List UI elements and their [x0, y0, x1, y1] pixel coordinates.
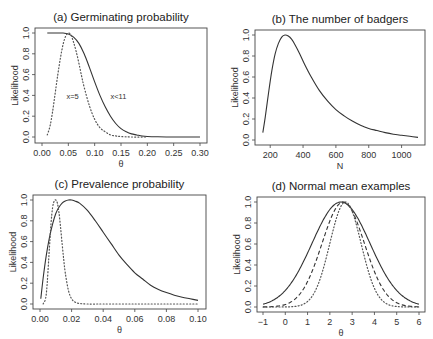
- x-tick-label: 0.00: [31, 314, 49, 324]
- series-line-solid: [47, 33, 200, 137]
- plot-frame: [255, 30, 425, 145]
- series-line-dashed: [263, 202, 419, 307]
- x-tick-label: 0.10: [189, 314, 207, 324]
- y-axis-label: Likelihood: [230, 67, 240, 108]
- x-tick-label: 0.05: [60, 148, 78, 158]
- x-axis-label: θ: [117, 325, 122, 335]
- x-axis-label: θ: [118, 159, 123, 169]
- x-tick-label: 5: [394, 317, 399, 327]
- panel-a-germinating-probability: (a) Germinating probability0.000.050.100…: [10, 11, 209, 169]
- y-tick-label: 1.0: [243, 196, 253, 209]
- x-tick-label: 0.20: [139, 148, 157, 158]
- x-tick-label: 1: [305, 317, 310, 327]
- y-tick-label: 0.6: [243, 238, 253, 251]
- x-axis-label: N: [337, 161, 344, 171]
- y-tick-label: 1.0: [241, 29, 251, 42]
- series-line-solid: [263, 202, 419, 304]
- x-tick-label: 400: [296, 150, 311, 160]
- y-tick-label: 1.0: [21, 27, 31, 40]
- panel-b-number-of-badgers: (b) The number of badgers200400600800100…: [230, 13, 425, 171]
- y-tick-label: 0.2: [243, 280, 253, 293]
- x-tick-label: 6: [416, 317, 421, 327]
- curve-annotation: x=5: [66, 92, 78, 101]
- x-tick-label: 800: [361, 150, 376, 160]
- x-tick-label: 600: [328, 150, 343, 160]
- series-line-dotted: [47, 33, 147, 137]
- chart-title: (c) Prevalence probability: [55, 178, 185, 190]
- panel-c-prevalence-probability: (c) Prevalence probability0.000.020.040.…: [8, 178, 207, 335]
- y-tick-label: 0.8: [241, 50, 251, 63]
- series-line-solid: [263, 35, 418, 137]
- chart-title: (d) Normal mean examples: [272, 180, 411, 192]
- panel-d-normal-mean-examples: (d) Normal mean examples−101234560.00.20…: [232, 180, 425, 338]
- y-tick-label: 0.6: [21, 68, 31, 81]
- curve-annotation: x<11: [110, 92, 126, 101]
- x-tick-label: 0.10: [86, 148, 104, 158]
- y-axis-label: Likelihood: [232, 234, 242, 275]
- y-tick-label: 0.0: [243, 301, 253, 314]
- plot-frame: [35, 28, 207, 143]
- x-tick-label: 0.25: [165, 148, 183, 158]
- series-line-dotted: [43, 200, 198, 304]
- y-tick-label: 0.2: [241, 113, 251, 126]
- x-tick-label: 0: [283, 317, 288, 327]
- series-line-dotted: [263, 202, 419, 307]
- x-tick-label: 0.06: [126, 314, 144, 324]
- y-tick-label: 0.8: [19, 215, 29, 228]
- y-axis-label: Likelihood: [10, 65, 20, 106]
- x-tick-label: 0.30: [191, 148, 209, 158]
- x-tick-label: 200: [263, 150, 278, 160]
- y-tick-label: 0.4: [243, 259, 253, 272]
- y-tick-label: 0.6: [241, 71, 251, 84]
- y-tick-label: 0.0: [19, 298, 29, 311]
- y-tick-label: 0.2: [21, 110, 31, 123]
- y-tick-label: 0.6: [19, 235, 29, 248]
- figure-canvas: (a) Germinating probability0.000.050.100…: [0, 0, 433, 339]
- y-tick-label: 0.8: [21, 48, 31, 61]
- y-tick-label: 0.0: [21, 131, 31, 144]
- y-tick-label: 0.0: [241, 134, 251, 147]
- x-axis-label: θ: [338, 328, 343, 338]
- x-tick-label: 2: [327, 317, 332, 327]
- y-tick-label: 0.8: [243, 217, 253, 230]
- y-axis-label: Likelihood: [8, 232, 18, 273]
- x-tick-label: 0.02: [63, 314, 81, 324]
- x-tick-label: 4: [372, 317, 377, 327]
- series-line-solid: [41, 200, 198, 300]
- y-tick-label: 1.0: [19, 194, 29, 207]
- y-tick-label: 0.4: [19, 256, 29, 269]
- y-tick-label: 0.4: [21, 89, 31, 102]
- y-tick-label: 0.4: [241, 92, 251, 105]
- x-tick-label: −1: [258, 317, 268, 327]
- x-tick-label: 0.04: [94, 314, 112, 324]
- x-tick-label: 1000: [392, 150, 412, 160]
- y-tick-label: 0.2: [19, 277, 29, 290]
- x-tick-label: 0.08: [158, 314, 176, 324]
- x-tick-label: 0.00: [33, 148, 51, 158]
- chart-title: (a) Germinating probability: [53, 11, 189, 23]
- x-tick-label: 3: [350, 317, 355, 327]
- x-tick-label: 0.15: [112, 148, 130, 158]
- chart-title: (b) The number of badgers: [272, 13, 409, 25]
- plot-frame: [257, 197, 425, 312]
